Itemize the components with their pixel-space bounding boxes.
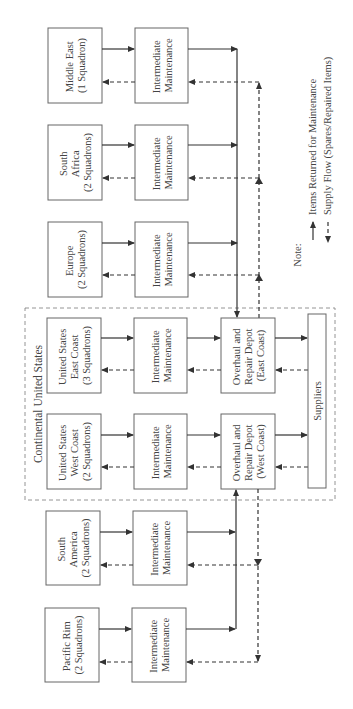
region-label: Continental United States: [32, 344, 44, 463]
svg-text:Overhaul and Repair Depo: Overhaul and Repair Depot (West Coast): [231, 422, 267, 481]
intermediate-maintenance-box: [134, 318, 187, 393]
svg-text:United States East Coast: United States East Coast (3 Squadrons): [57, 325, 93, 385]
intermediate-maintenance-box: [135, 28, 188, 103]
squadron-box-europe: [48, 222, 102, 297]
maintenance-supply-diagram: Continental United States Middle East (1…: [0, 0, 353, 709]
row-middle-east: Middle East (1 Squadron) Intermediate Ma…: [48, 28, 259, 103]
row-south-america: South America (2 Squadrons) Intermediate…: [46, 511, 258, 585]
intermediate-maintenance-box: [132, 608, 186, 682]
legend-title: Note:: [292, 243, 303, 266]
svg-text:Middle East (1 Squadron): Middle East (1 Squadron): [64, 37, 88, 93]
intermediate-maintenance-box: [135, 125, 188, 200]
suppliers-label: Suppliers: [312, 381, 323, 421]
svg-text:Intermediate Maintenance: Intermediate Maintenance: [151, 232, 174, 288]
row-us-east: United States East Coast (3 Squadrons) I…: [47, 318, 308, 393]
row-south-africa: South Africa (2 Squadrons) Intermediate …: [48, 125, 259, 200]
legend-item-returned: Items Returned for Maintenance: [307, 79, 318, 215]
svg-text:Intermediate Maintenance: Intermediate Maintenance: [148, 617, 171, 673]
intermediate-maintenance-box: [135, 222, 188, 297]
svg-text:United States West Coast: United States West Coast (2 Squadrons): [57, 421, 93, 481]
svg-text:Intermediate Maintenance: Intermediate Maintenance: [151, 38, 174, 94]
row-europe: Europe (2 Squadrons) Intermediate Mainte…: [48, 222, 259, 297]
svg-text:Intermediate Maintenance: Intermediate Maintenance: [150, 424, 173, 480]
legend-item-supply: Supply Flow (Spares/Repaired Items): [322, 56, 334, 215]
intermediate-maintenance-box: [134, 414, 187, 489]
squadron-box-pacific-rim: [45, 608, 99, 682]
intermediate-maintenance-box: [133, 511, 187, 585]
svg-text:Intermediate Maintenance: Intermediate Maintenance: [151, 135, 174, 191]
squadron-box-middle-east: [48, 28, 102, 103]
row-pacific-rim: Pacific Rim (2 Squadrons) Intermediate M…: [45, 608, 258, 682]
row-us-west: United States West Coast (2 Squadrons) I…: [47, 414, 308, 489]
svg-text:Intermediate Maintenance: Intermediate Maintenance: [149, 520, 172, 576]
legend: Note: Items Returned for Maintenance Sup…: [292, 56, 334, 267]
svg-text:Intermediate Maintenance: Intermediate Maintenance: [150, 328, 173, 384]
svg-text:Pacific Rim (2 Squadrons: Pacific Rim (2 Squadrons): [61, 615, 85, 675]
svg-text:Overhaul and Repair Depo: Overhaul and Repair Depot (East Coast): [231, 326, 267, 385]
